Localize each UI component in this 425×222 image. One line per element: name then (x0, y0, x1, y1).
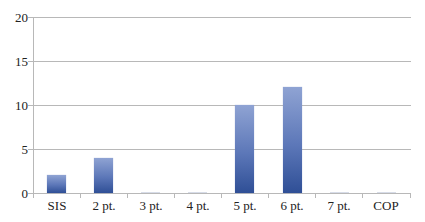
x-tick (410, 193, 411, 198)
x-label-2pt: 2 pt. (79, 199, 129, 213)
gridline-5 (33, 149, 411, 150)
bar-7pt (330, 192, 349, 193)
gridline-10 (33, 105, 411, 106)
x-tick (80, 193, 81, 198)
gridline-20 (33, 17, 411, 18)
x-label-4pt: 4 pt. (173, 199, 223, 213)
x-tick (33, 193, 34, 198)
x-label-cop: COP (361, 199, 411, 213)
x-label-sis: SIS (32, 199, 82, 213)
x-label-3pt: 3 pt. (126, 199, 176, 213)
bar-sis (47, 175, 66, 193)
gridline-15 (33, 61, 411, 62)
y-tick-label-20: 20 (4, 11, 28, 25)
x-axis (28, 193, 411, 194)
bar-4pt (188, 192, 207, 193)
x-label-6pt: 6 pt. (267, 199, 317, 213)
y-tick-label-5: 5 (4, 143, 28, 157)
x-tick (315, 193, 316, 198)
y-axis (33, 17, 34, 193)
bar-3pt (141, 192, 160, 193)
y-tick-label-15: 15 (4, 55, 28, 69)
x-tick (268, 193, 269, 198)
bar-cop (377, 192, 396, 193)
bar-5pt (235, 105, 254, 193)
x-label-7pt: 7 pt. (314, 199, 364, 213)
x-tick (174, 193, 175, 198)
x-tick (362, 193, 363, 198)
bar-6pt (283, 87, 302, 193)
x-tick (221, 193, 222, 198)
bar-2pt (94, 158, 113, 193)
y-tick-label-0: 0 (4, 187, 28, 201)
x-label-5pt: 5 pt. (220, 199, 270, 213)
y-tick-label-10: 10 (4, 99, 28, 113)
bar-chart: 20 15 10 5 0 SIS 2 pt. 3 pt. 4 pt. 5 pt.… (0, 0, 425, 222)
x-tick (127, 193, 128, 198)
